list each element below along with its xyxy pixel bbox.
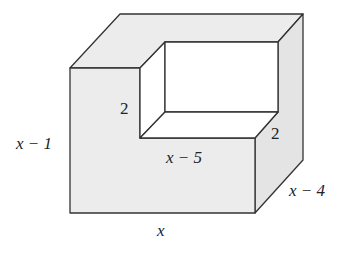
label-notch-width: x − 5 (165, 148, 202, 167)
label-width: x (156, 221, 165, 240)
label-depth: x − 4 (288, 181, 326, 200)
notch-back-wall (165, 42, 278, 112)
label-notch-depth-right: 2 (271, 124, 280, 143)
notch-floor (140, 112, 278, 138)
label-notch-depth-left: 2 (120, 99, 129, 118)
box-diagram: 2 2 x − 1 x − 5 x − 4 x (0, 0, 355, 253)
label-height: x − 1 (15, 134, 52, 153)
